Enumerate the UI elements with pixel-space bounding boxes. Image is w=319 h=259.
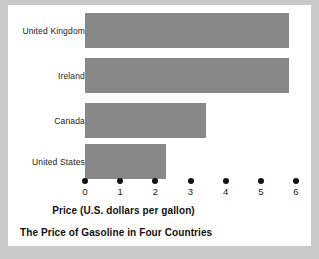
plot-area: United Kingdom Ireland Canada United Sta… [8,5,311,246]
chart-panel: United Kingdom Ireland Canada United Sta… [8,5,311,246]
x-axis-tick-label: 3 [181,186,201,197]
bar-united-kingdom [85,13,289,48]
tick-dot-icon [152,178,158,184]
bar-row: Canada [8,103,311,138]
bar-category-label: Ireland [58,71,85,81]
bar-row: United States [8,144,311,179]
x-axis: 0123456 [8,178,311,208]
x-axis-tick-label: 5 [251,186,271,197]
bar-canada [85,103,206,138]
bar-row: United Kingdom [8,13,311,48]
chart-title: The Price of Gasoline in Four Countries [20,227,212,238]
x-axis-tick-label: 6 [286,186,306,197]
tick-dot-icon [223,178,229,184]
tick-dot-icon [188,178,194,184]
bar-category-label: Canada [54,116,85,126]
x-axis-title: Price (U.S. dollars per gallon) [8,205,311,216]
x-axis-tick-label: 1 [110,186,130,197]
x-axis-tick-label: 0 [75,186,95,197]
tick-dot-icon [82,178,88,184]
bar-category-label: United Kingdom [22,26,85,36]
tick-dot-icon [293,178,299,184]
x-axis-tick-label: 2 [145,186,165,197]
tick-dot-icon [117,178,123,184]
bar-united-states [85,144,166,179]
x-axis-tick-label: 4 [216,186,236,197]
bar-category-label: United States [32,157,85,167]
bar-ireland [85,58,289,93]
bar-row: Ireland [8,58,311,93]
tick-dot-icon [258,178,264,184]
figure-container: United Kingdom Ireland Canada United Sta… [0,0,319,259]
